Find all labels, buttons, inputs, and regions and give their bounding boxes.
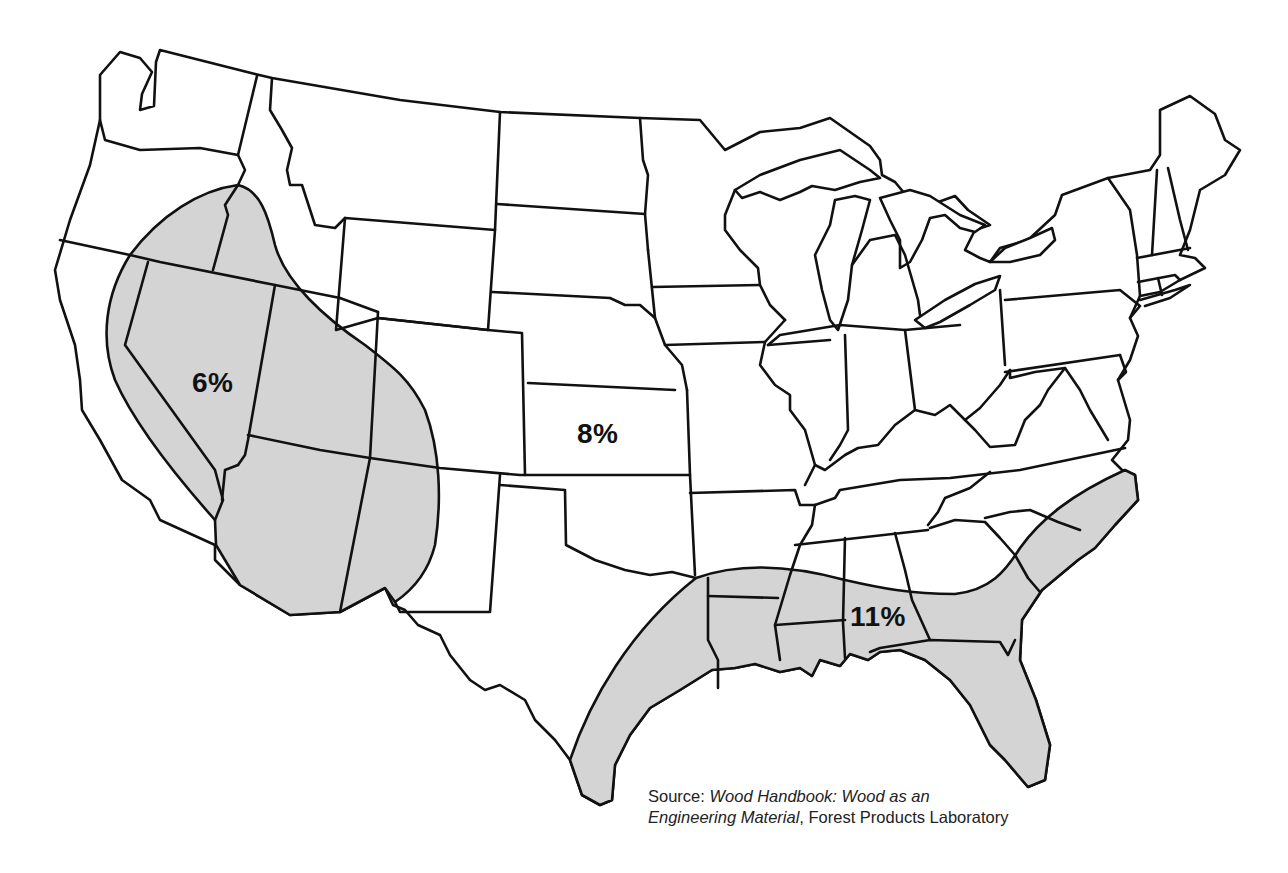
- us-map: [0, 0, 1288, 873]
- zone-label-6-percent: 6%: [192, 367, 233, 399]
- source-citation: Source: Wood Handbook: Wood as an Engine…: [648, 786, 1008, 828]
- zone-label-8-percent: 8%: [577, 418, 618, 450]
- source-prefix: Source:: [648, 787, 709, 805]
- source-title-line2: Engineering Material: [648, 808, 799, 826]
- source-suffix: , Forest Products Laboratory: [799, 808, 1008, 826]
- source-title-line1: Wood Handbook: Wood as an: [709, 787, 929, 805]
- border-ms-al: [843, 538, 845, 658]
- zone-label-11-percent: 11%: [850, 601, 906, 633]
